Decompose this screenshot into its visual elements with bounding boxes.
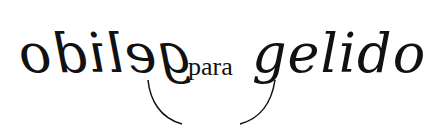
script-word: gelido [252,22,423,85]
connector-word: para [188,52,233,82]
mirrored-word: gelido [18,22,192,85]
